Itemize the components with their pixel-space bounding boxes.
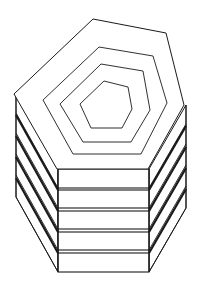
hexagon-stack-illustration [0, 0, 200, 290]
layer-front-face [58, 211, 149, 229]
layer-front-face [58, 253, 149, 272]
stacked-hexagon-diagram [0, 0, 200, 290]
layer-front-face [58, 190, 149, 208]
layer-front-face [58, 169, 149, 188]
layer-front-face [58, 232, 149, 250]
